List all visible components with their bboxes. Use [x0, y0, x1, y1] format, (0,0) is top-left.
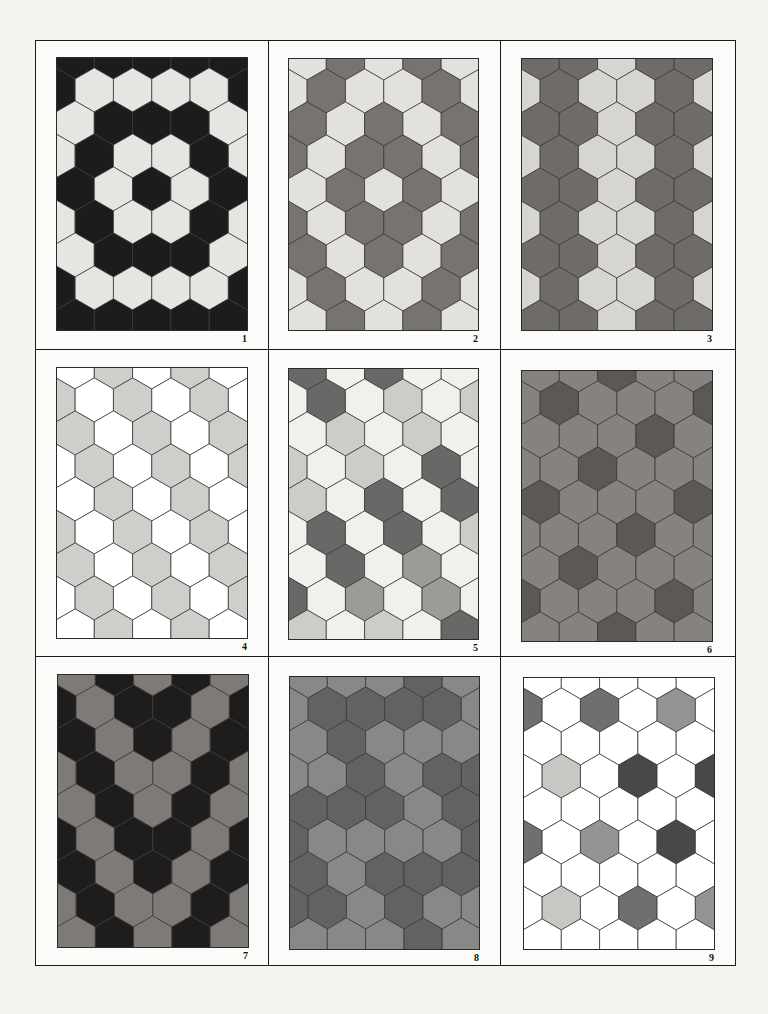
- row-divider: [35, 656, 736, 657]
- hex-pattern-panel-2: [288, 58, 479, 331]
- hex-pattern-panel-7: [57, 674, 249, 948]
- column-divider: [268, 40, 269, 966]
- hex-pattern-panel-6: [521, 370, 713, 642]
- column-divider: [500, 40, 501, 966]
- hex-pattern-panel-5: [288, 368, 479, 640]
- hex-pattern-panel-9: [523, 677, 715, 950]
- panel-number-label: 1: [242, 333, 247, 344]
- hex-pattern-panel-4: [56, 367, 248, 639]
- row-divider: [35, 349, 736, 350]
- panel-number-label: 6: [707, 644, 712, 655]
- panel-number-label: 9: [709, 952, 714, 963]
- panel-number-label: 5: [473, 642, 478, 653]
- panel-number-label: 3: [707, 333, 712, 344]
- panel-number-label: 8: [474, 952, 479, 963]
- panel-number-label: 2: [473, 333, 478, 344]
- hex-pattern-panel-8: [289, 676, 480, 950]
- hex-pattern-panel-1: [56, 57, 248, 331]
- panel-number-label: 7: [243, 950, 248, 961]
- hex-pattern-panel-3: [521, 58, 713, 331]
- panel-number-label: 4: [242, 641, 247, 652]
